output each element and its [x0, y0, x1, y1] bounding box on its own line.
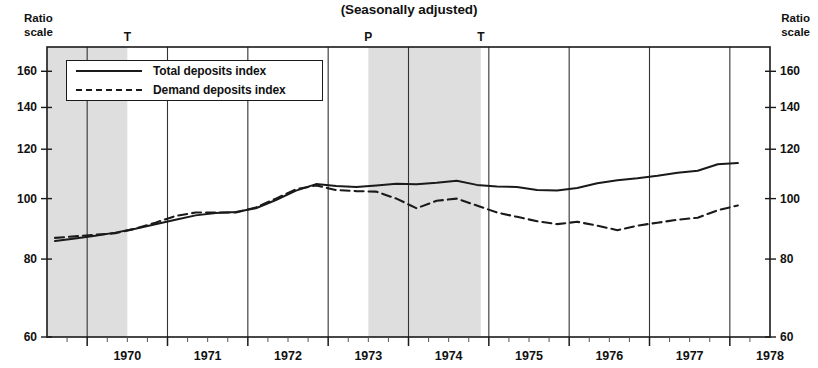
legend-swatch-dash — [76, 89, 142, 91]
y-axis-label-right: 160 — [780, 64, 800, 78]
chart-plot-area — [0, 0, 818, 368]
x-axis-label: 1978 — [756, 349, 784, 363]
legend-label: Demand deposits index — [153, 83, 286, 97]
recession-band — [368, 47, 480, 337]
legend-item: Total deposits index — [67, 61, 322, 80]
x-axis-label: 1975 — [515, 349, 543, 363]
y-axis-label-right: 120 — [780, 142, 800, 156]
legend-item: Demand deposits index — [67, 80, 322, 99]
y-axis-label-right: 60 — [780, 330, 793, 344]
legend-swatch-solid — [76, 70, 142, 72]
x-axis-label: 1977 — [676, 349, 704, 363]
legend-label: Total deposits index — [153, 64, 266, 78]
y-axis-label-left: 60 — [24, 330, 37, 344]
x-axis-label: 1976 — [595, 349, 623, 363]
chart-legend: Total deposits indexDemand deposits inde… — [66, 60, 323, 101]
x-axis-label: 1973 — [354, 349, 382, 363]
y-axis-label-left: 100 — [17, 192, 37, 206]
y-axis-label-left: 140 — [17, 100, 37, 114]
y-axis-label-right: 100 — [780, 192, 800, 206]
x-axis-label: 1970 — [113, 349, 141, 363]
y-axis-label-right: 80 — [780, 252, 793, 266]
y-axis-label-right: 140 — [780, 100, 800, 114]
x-axis-label: 1971 — [194, 349, 222, 363]
y-axis-label-left: 80 — [24, 252, 37, 266]
x-axis-label: 1974 — [435, 349, 463, 363]
chart-svg — [0, 0, 818, 368]
y-axis-label-left: 120 — [17, 142, 37, 156]
x-axis-label: 1972 — [274, 349, 302, 363]
y-axis-label-left: 160 — [17, 64, 37, 78]
